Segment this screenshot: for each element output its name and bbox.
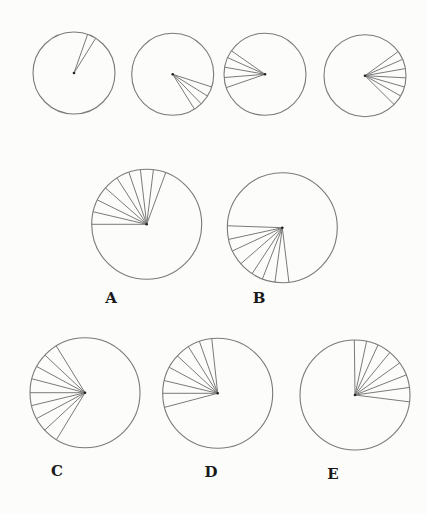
spoke-line [228, 58, 265, 75]
option-label-d: D [204, 465, 217, 480]
spoke-line [241, 228, 283, 264]
option-label-e: E [327, 467, 338, 482]
spoke-line [229, 228, 283, 240]
sequence-row [33, 32, 406, 117]
spoke-line [165, 393, 218, 407]
spoke-line [227, 226, 282, 228]
spoke-line [164, 381, 218, 394]
center-dot [73, 72, 76, 75]
sequence-dial-2 [132, 33, 214, 115]
center-dot [281, 226, 284, 229]
spoke-line [173, 74, 195, 109]
spoke-line [282, 228, 289, 283]
option-dial-b [227, 173, 337, 283]
spoke-line [354, 340, 355, 395]
option-dial-c [30, 338, 140, 448]
spoke-line [32, 393, 85, 406]
spoke-line [365, 69, 405, 76]
figure-canvas [0, 0, 427, 514]
center-dot [145, 223, 148, 226]
center-dot [84, 391, 87, 394]
sequence-dial-1 [33, 32, 115, 114]
spoke-line [56, 393, 85, 440]
option-dial-a [92, 169, 202, 279]
option-dial-e [300, 340, 410, 450]
sequence-dial-3 [224, 33, 306, 115]
center-dot [216, 392, 219, 395]
center-dot [264, 73, 267, 76]
spoke-line [355, 395, 410, 402]
center-dot [354, 394, 357, 397]
answer-options [30, 169, 410, 450]
option-label-a: A [105, 291, 117, 306]
center-dot [171, 73, 174, 76]
spoke-line [355, 341, 367, 395]
sequence-dial-4 [324, 35, 406, 117]
spoke-line [231, 51, 265, 75]
spoke-line [93, 212, 147, 225]
option-dial-d [163, 338, 273, 448]
option-label-c: C [51, 464, 63, 479]
center-dot [364, 74, 367, 77]
spoke-line [225, 67, 265, 74]
option-label-b: B [253, 291, 266, 306]
